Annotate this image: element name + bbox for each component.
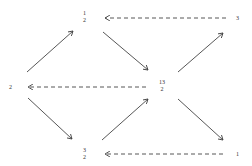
node-top: 1 2: [83, 10, 86, 24]
node-bottom: 3 2: [83, 147, 86, 161]
node-top-right-label: 3: [236, 15, 239, 21]
node-center-denominator: 2: [161, 86, 164, 93]
node-center: 13 2: [159, 79, 165, 93]
node-bottom-numerator: 3: [83, 147, 86, 154]
node-bottom-denominator: 2: [83, 154, 86, 161]
node-center-numerator: 13: [159, 79, 165, 86]
arrow-left-to-bottom: [28, 98, 72, 139]
arrow-top-to-center: [103, 32, 148, 70]
arrow-center-to-bottom-right: [178, 99, 223, 140]
node-left: 2: [9, 84, 12, 90]
node-bottom-right-label: 1: [236, 151, 239, 157]
node-bottom-right: 1: [236, 151, 239, 157]
node-top-right: 3: [236, 15, 239, 21]
node-top-denominator: 2: [83, 17, 86, 24]
diagram-edges: [0, 0, 252, 166]
node-left-label: 2: [9, 84, 12, 90]
arrow-center-to-top-right: [178, 33, 223, 72]
arrow-left-to-top: [27, 31, 73, 72]
arrow-bottom-to-center: [102, 99, 148, 140]
node-top-numerator: 1: [83, 10, 86, 17]
